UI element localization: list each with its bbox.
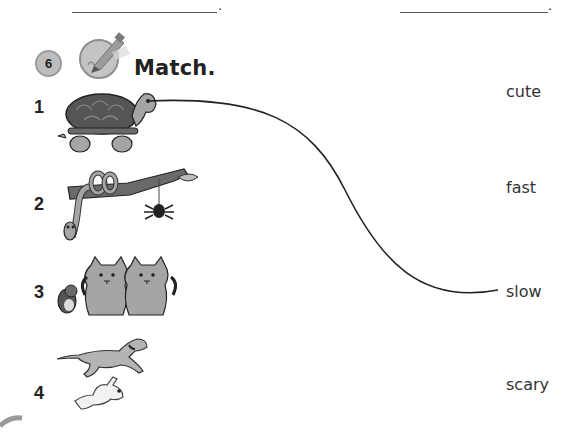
page-corner-decoration	[0, 414, 40, 432]
